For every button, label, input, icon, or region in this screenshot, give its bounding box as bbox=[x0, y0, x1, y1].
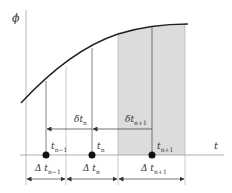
point-t-n-1 bbox=[43, 152, 50, 159]
delta-big-n-1: Δ tn−1 bbox=[35, 164, 61, 175]
y-axis-label: ϕ bbox=[12, 13, 20, 24]
point-label-n: tn bbox=[97, 142, 105, 153]
x-axis-label: t bbox=[214, 141, 218, 151]
delta-small-n+1: δtn+1 bbox=[125, 115, 147, 126]
delta-small-n: δtn bbox=[74, 115, 87, 126]
point-t-n+1 bbox=[149, 152, 156, 159]
delta-big-n+1: Δ tn+1 bbox=[141, 164, 167, 175]
point-t-n bbox=[89, 152, 96, 159]
delta-big-n: Δ tn bbox=[83, 164, 100, 175]
point-label-n-1: tn−1 bbox=[51, 142, 67, 153]
point-label-n+1: tn+1 bbox=[157, 142, 173, 153]
shaded-region bbox=[118, 24, 185, 155]
